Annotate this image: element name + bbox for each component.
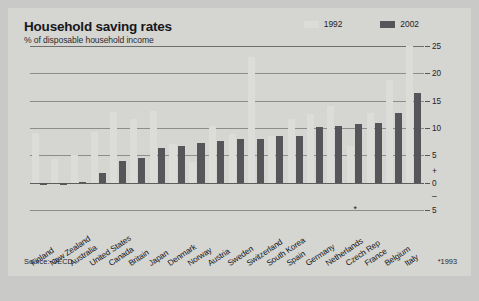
- tickmark-15: [425, 101, 430, 102]
- bar-2002-france: [375, 123, 382, 183]
- bar-2002-denmark: [178, 146, 185, 183]
- bar-group: [266, 46, 286, 210]
- category-axis: FinlandNew ZealandAustraliaUnited States…: [30, 212, 424, 268]
- bar-1992-britain: [130, 119, 137, 182]
- y-axis-label-5: 5: [432, 151, 437, 160]
- bar-2002-netherlands: [335, 126, 342, 182]
- bar-1992-italy: [406, 46, 413, 183]
- bar-2002-canada: [119, 161, 126, 183]
- bar-group: [286, 46, 306, 210]
- bar-1992-spain: [288, 119, 295, 183]
- bar-1992-united-states: [91, 132, 98, 182]
- bar-group: [129, 46, 149, 210]
- bar-1992-netherlands: [327, 106, 334, 183]
- bar-2002-spain: [296, 136, 303, 183]
- bar-2002-united-states: [99, 173, 106, 183]
- tickmark-0: [425, 183, 430, 184]
- bar-2002-south-korea: [276, 136, 283, 182]
- bar-group: [168, 46, 188, 210]
- tickmark--5: [425, 210, 430, 211]
- bar-2002-norway: [197, 143, 204, 183]
- footnote: *1993: [438, 257, 457, 266]
- legend-swatch-1992: [304, 21, 319, 28]
- bar-1992-austria: [209, 126, 216, 182]
- bar-1992-sweden: [229, 134, 236, 183]
- legend-label-1992: 1992: [324, 19, 343, 29]
- bar-1992-finland: [32, 133, 39, 182]
- bar-2002-switzerland: [257, 139, 264, 183]
- legend-item-1992: 1992: [304, 19, 343, 29]
- bar-1992-australia: [71, 155, 78, 183]
- bar-2002-czech-rep: [355, 124, 362, 182]
- bar-group: [385, 46, 405, 210]
- plot-area: 50510152025+–: [30, 46, 424, 210]
- bar-2002-finland: [40, 183, 47, 185]
- bar-group: [306, 46, 326, 210]
- bar-2002-italy: [414, 93, 421, 183]
- chart-subtitle: % of disposable household income: [24, 35, 154, 45]
- bar-group: [247, 46, 267, 210]
- bar-1992-japan: [150, 111, 157, 183]
- bar-group: [50, 46, 70, 210]
- bar-2002-austria: [217, 141, 224, 183]
- legend-swatch-2002: [380, 21, 395, 28]
- bar-2002-japan: [158, 148, 165, 183]
- chart-figure: Household saving rates % of disposable h…: [8, 8, 471, 276]
- gridline--5: [30, 210, 424, 211]
- bar-group: [404, 46, 424, 210]
- bar-1992-belgium: [386, 80, 393, 183]
- y-axis-label-20: 20: [432, 69, 441, 78]
- source-note: Source: OECD: [24, 257, 73, 266]
- bar-2002-germany: [316, 127, 323, 183]
- bar-group: [345, 46, 365, 210]
- bar-group: [188, 46, 208, 210]
- bar-group: [69, 46, 89, 210]
- bar-1992-france: [367, 113, 374, 183]
- tickmark-20: [425, 73, 430, 74]
- bar-groups: [30, 46, 424, 210]
- category-label-japan: Japan: [147, 248, 170, 268]
- bar-group: [30, 46, 50, 210]
- bar-1992-canada: [110, 112, 117, 183]
- positive-sign: +: [432, 166, 437, 176]
- bar-1992-switzerland: [248, 57, 255, 183]
- bar-2002-new-zealand: [60, 183, 67, 185]
- bar-group: [227, 46, 247, 210]
- bar-1992-south-korea: [268, 136, 275, 183]
- bar-2002-belgium: [395, 113, 402, 182]
- y-axis-label-15: 15: [432, 96, 441, 105]
- bar-group: [109, 46, 129, 210]
- negative-sign: –: [432, 191, 437, 201]
- legend-label-2002: 2002: [400, 19, 419, 29]
- y-axis-label-0: 0: [432, 178, 437, 187]
- bar-1992-new-zealand: [51, 159, 58, 183]
- bar-2002-sweden: [237, 139, 244, 183]
- bar-2002-britain: [138, 158, 145, 183]
- bar-2002-australia: [79, 182, 86, 183]
- bar-1992-norway: [189, 162, 196, 182]
- y-axis-label-25: 25: [432, 42, 441, 51]
- tickmark-10: [425, 128, 430, 129]
- y-axis-label--5: 5: [432, 206, 437, 215]
- bar-group: [89, 46, 109, 210]
- tickmark-5: [425, 155, 430, 156]
- legend-item-2002: 2002: [380, 19, 419, 29]
- chart-title: Household saving rates: [24, 19, 172, 34]
- bar-group: [365, 46, 385, 210]
- bar-1992-germany: [307, 114, 314, 183]
- bar-1992-denmark: [169, 144, 176, 182]
- bar-group: [148, 46, 168, 210]
- y-axis-label-10: 10: [432, 124, 441, 133]
- tickmark-25: [425, 46, 430, 47]
- bar-1992-czech-rep: [347, 146, 354, 183]
- chart-legend: 1992 2002: [304, 19, 419, 29]
- bar-group: [207, 46, 227, 210]
- bar-group: [326, 46, 346, 210]
- category-asterisk: *: [353, 205, 357, 214]
